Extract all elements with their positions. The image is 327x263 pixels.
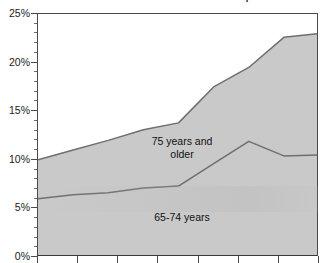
x-tick xyxy=(117,256,118,263)
x-tick xyxy=(37,256,38,263)
y-axis: 25% 20% 15% 10% 5% 0% xyxy=(0,0,37,263)
chart-title: Older Americans as a Share of U.S. Popul… xyxy=(42,0,310,3)
x-tick xyxy=(318,256,319,263)
y-axis-label-5: 5% xyxy=(15,201,30,213)
y-axis-label-15: 15% xyxy=(9,104,30,116)
x-tick xyxy=(77,256,78,263)
y-axis-label-10: 10% xyxy=(9,153,30,165)
x-tick xyxy=(238,256,239,263)
x-tick xyxy=(278,256,279,263)
x-tick xyxy=(198,256,199,263)
x-tick xyxy=(157,256,158,263)
x-axis xyxy=(0,256,327,263)
y-axis-label-25: 25% xyxy=(9,7,30,19)
series-label-75-and-older: 75 years and older xyxy=(133,135,231,160)
y-axis-label-20: 20% xyxy=(9,56,30,68)
chart-figure: Older Americans as a Share of U.S. Popul… xyxy=(0,0,327,263)
series-label-65-74: 65-74 years xyxy=(133,211,231,224)
